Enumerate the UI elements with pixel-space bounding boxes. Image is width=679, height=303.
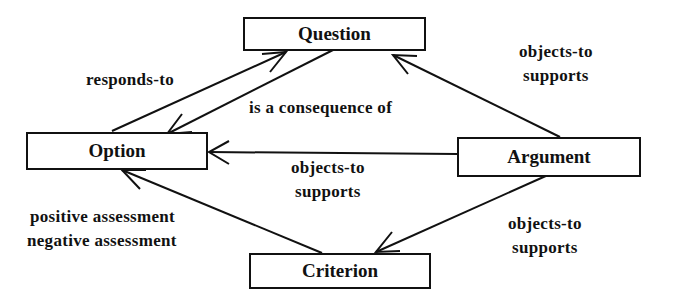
edge-question-to-option: [167, 50, 333, 134]
edge-line: [209, 152, 457, 154]
edge-label-is-a-consequence-of: is a consequence of: [249, 96, 392, 120]
node-argument: Argument: [457, 137, 641, 177]
node-criterion: Criterion: [249, 253, 431, 289]
edge-label-line: responds-to: [86, 68, 174, 92]
edge-label-argument-question: objects-to supports: [519, 40, 593, 88]
node-label: Option: [88, 140, 145, 162]
edge-line: [167, 50, 333, 134]
edge-label-line: is a consequence of: [249, 96, 392, 120]
edge-label-line: supports: [508, 236, 582, 260]
edge-label-criterion-option: positive assessment negative assessment: [27, 205, 177, 253]
node-question: Question: [243, 17, 426, 51]
node-label: Criterion: [302, 260, 378, 282]
edge-label-line: objects-to: [508, 212, 582, 236]
node-label: Argument: [507, 146, 590, 168]
edge-label-argument-option: objects-to supports: [291, 156, 365, 204]
edge-label-line: negative assessment: [27, 229, 177, 253]
edge-label-line: objects-to: [291, 156, 365, 180]
edge-label-line: positive assessment: [27, 205, 177, 229]
node-option: Option: [26, 132, 208, 170]
edge-label-argument-criterion: objects-to supports: [508, 212, 582, 260]
edge-label-line: supports: [519, 64, 593, 88]
edge-label-responds-to: responds-to: [86, 68, 174, 92]
node-label: Question: [298, 23, 371, 45]
edge-label-line: objects-to: [519, 40, 593, 64]
edge-label-line: supports: [291, 180, 365, 204]
